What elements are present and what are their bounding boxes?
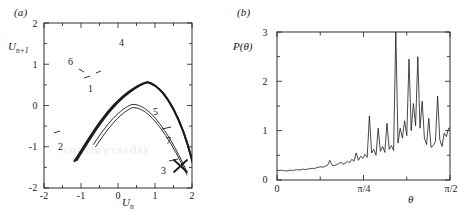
panel-a-frame xyxy=(44,23,192,188)
panel-b: (b) P(θ) θ 3 2 1 0 0 π/4 π/2 xyxy=(233,0,466,221)
panel-a-ticks xyxy=(44,23,192,188)
panel-a: (a) Observations Un+1 Un 2 1 0 -1 -2 -2 … xyxy=(0,0,233,221)
panel-a-plot xyxy=(0,0,233,221)
spectrum-trace xyxy=(277,32,450,171)
panel-b-plot xyxy=(233,0,466,221)
curve-inner-lower xyxy=(96,108,187,176)
figure-container: (a) Observations Un+1 Un 2 1 0 -1 -2 -2 … xyxy=(0,0,466,221)
